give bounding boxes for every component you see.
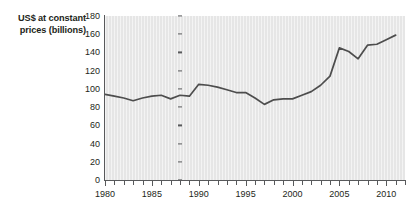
x-tick-mark-minor [330, 181, 331, 185]
x-tick-label: 2000 [282, 189, 302, 199]
x-tick-label: 1995 [236, 189, 256, 199]
x-tick-label: 1985 [142, 189, 162, 199]
x-tick-mark-major [152, 181, 153, 186]
x-tick-label: 1990 [189, 189, 209, 199]
x-tick-mark-minor [180, 181, 181, 185]
x-tick-mark-minor [236, 181, 237, 185]
x-tick-mark-minor [377, 181, 378, 185]
x-tick-mark-minor [124, 181, 125, 185]
x-tick-mark-major [293, 181, 294, 186]
x-tick-mark-minor [311, 181, 312, 185]
x-tick-mark-minor [274, 181, 275, 185]
x-tick-label: 2010 [376, 189, 396, 199]
x-tick-label: 1980 [95, 189, 115, 199]
x-tick-mark-major [246, 181, 247, 186]
x-tick-label: 2005 [329, 189, 349, 199]
x-tick-mark-minor [396, 181, 397, 185]
x-tick-mark-minor [161, 181, 162, 185]
x-tick-mark-minor [208, 181, 209, 185]
x-tick-mark-major [339, 181, 340, 186]
x-tick-mark-minor [218, 181, 219, 185]
x-tick-mark-minor [264, 181, 265, 185]
x-tick-mark-minor [171, 181, 172, 185]
x-tick-mark-minor [255, 181, 256, 185]
x-tick-mark-minor [143, 181, 144, 185]
x-tick-mark-minor [358, 181, 359, 185]
x-tick-mark-minor [405, 181, 406, 185]
x-axis-ticks: 1980198519901995200020052010 [0, 0, 412, 208]
x-tick-mark-minor [302, 181, 303, 185]
x-tick-mark-minor [227, 181, 228, 185]
x-tick-mark-major [199, 181, 200, 186]
x-tick-mark-minor [283, 181, 284, 185]
x-tick-mark-minor [368, 181, 369, 185]
x-tick-mark-minor [189, 181, 190, 185]
x-tick-mark-minor [321, 181, 322, 185]
x-tick-mark-minor [114, 181, 115, 185]
x-tick-mark-major [105, 181, 106, 186]
x-tick-mark-major [386, 181, 387, 186]
x-tick-mark-minor [349, 181, 350, 185]
chart-figure: US$ at constant prices (billions) 180160… [0, 0, 412, 208]
x-tick-mark-minor [133, 181, 134, 185]
